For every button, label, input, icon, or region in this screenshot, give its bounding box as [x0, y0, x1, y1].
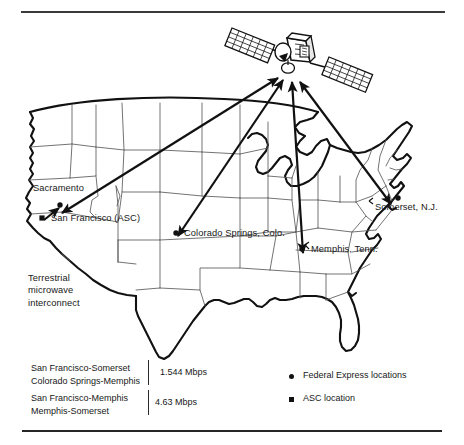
bandwidth-rate-row-1: 1.544 Mbps [160, 367, 207, 377]
bandwidth-separator-2 [148, 390, 149, 415]
key-label-asc: ASC location [303, 393, 355, 403]
key-square-icon [289, 397, 294, 402]
bandwidth-routes-row-1: San Francisco-Somerset Colorado Springs-… [31, 362, 140, 388]
key-dot-icon [289, 374, 294, 379]
bandwidth-rate-row-2: 4.63 Mbps [155, 397, 197, 407]
figure-satellite-network-map: Sacramento San Francisco (ASC) Colorado … [0, 0, 464, 445]
legend-area: San Francisco-Somerset Colorado Springs-… [0, 0, 464, 445]
bandwidth-routes-row-2: San Francisco-Memphis Memphis-Somerset [31, 392, 128, 418]
bandwidth-separator-1 [148, 360, 149, 385]
key-label-federal-express: Federal Express locations [303, 370, 407, 380]
